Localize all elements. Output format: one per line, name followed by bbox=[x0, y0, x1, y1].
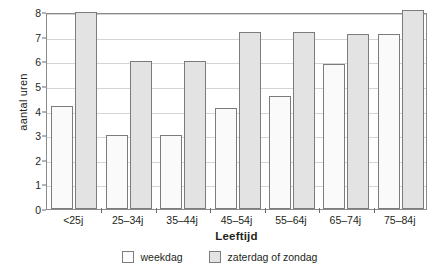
legend-item: zaterdag of zondag bbox=[209, 251, 318, 263]
y-axis-tick-label: 7 bbox=[22, 32, 41, 44]
bar-weekend bbox=[347, 34, 369, 209]
y-axis-tick-mark bbox=[42, 160, 46, 161]
legend-label: zaterdag of zondag bbox=[228, 251, 318, 263]
y-axis-tick-mark bbox=[42, 86, 46, 87]
bar-weekend bbox=[239, 32, 261, 209]
bar-weekdag bbox=[269, 96, 291, 209]
y-axis-tick-mark bbox=[42, 37, 46, 38]
x-axis-tick-label: 35–44j bbox=[166, 214, 198, 226]
y-axis-tick-mark bbox=[42, 62, 46, 63]
y-axis-tick-label: 6 bbox=[22, 56, 41, 68]
x-axis-tick-label: <25j bbox=[63, 214, 83, 226]
bar-weekdag bbox=[215, 108, 237, 209]
legend-label: weekdag bbox=[141, 251, 183, 263]
bar-weekend bbox=[184, 61, 206, 209]
y-axis-tick-label: 1 bbox=[22, 179, 41, 191]
x-axis-tick-label: 25–34j bbox=[112, 214, 144, 226]
chart-legend: weekdagzaterdag of zondag bbox=[0, 251, 439, 263]
y-axis-tick-label: 3 bbox=[22, 130, 41, 142]
bar-weekend bbox=[130, 61, 152, 209]
x-axis-tick-labels: <25j25–34j35–44j45–54j55–64j65–74j75–84j bbox=[46, 214, 427, 228]
y-axis-tick-label: 8 bbox=[22, 7, 41, 19]
x-axis-tick-label: 55–64j bbox=[275, 214, 307, 226]
x-axis-tick-label: 65–74j bbox=[330, 214, 362, 226]
legend-swatch-icon bbox=[209, 251, 221, 263]
bar-chart: aantal uren 012345678 <25j25–34j35–44j45… bbox=[0, 0, 439, 277]
bar-weekdag bbox=[378, 34, 400, 209]
y-axis-tick-labels: 012345678 bbox=[22, 13, 41, 210]
bar-weekdag bbox=[160, 135, 182, 209]
y-axis-tick-mark bbox=[42, 13, 46, 14]
legend-swatch-icon bbox=[122, 251, 134, 263]
bar-weekdag bbox=[51, 106, 73, 209]
bars bbox=[47, 14, 426, 209]
y-axis-tick-label: 0 bbox=[22, 204, 41, 216]
x-axis-tick-label: 45–54j bbox=[221, 214, 253, 226]
y-axis-tick-mark bbox=[42, 185, 46, 186]
plot-area bbox=[46, 13, 427, 210]
y-axis-tick-label: 5 bbox=[22, 81, 41, 93]
x-axis-title: Leeftijd bbox=[46, 230, 427, 242]
bar-weekend bbox=[402, 10, 424, 209]
x-axis-tick-label: 75–84j bbox=[384, 214, 416, 226]
bar-weekend bbox=[75, 12, 97, 209]
bar-weekdag bbox=[323, 64, 345, 209]
bar-weekend bbox=[293, 32, 315, 209]
y-axis-tick-mark bbox=[42, 136, 46, 137]
y-axis-tick-mark bbox=[42, 210, 46, 211]
y-axis-tick-label: 2 bbox=[22, 155, 41, 167]
y-axis-tick-mark bbox=[42, 111, 46, 112]
bar-weekdag bbox=[106, 135, 128, 209]
y-axis-tick-label: 4 bbox=[22, 106, 41, 118]
legend-item: weekdag bbox=[122, 251, 183, 263]
